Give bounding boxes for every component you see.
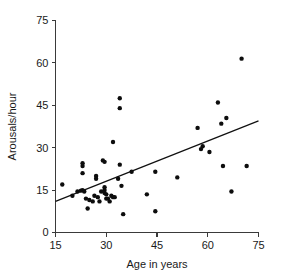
data-point	[82, 189, 86, 193]
y-axis-title: Arousals/hour	[6, 92, 18, 160]
data-point	[107, 199, 111, 203]
y-tick-label: 60	[36, 57, 48, 69]
data-point	[91, 199, 95, 203]
y-tick-label: 45	[36, 99, 48, 111]
regression-line	[56, 121, 259, 202]
x-tick-label: 30	[100, 239, 112, 251]
data-point	[195, 126, 199, 130]
data-point	[70, 194, 74, 198]
data-point	[221, 164, 225, 168]
data-point	[207, 150, 211, 154]
data-point	[219, 121, 223, 125]
data-point	[229, 189, 233, 193]
x-tick-label: 15	[49, 239, 61, 251]
data-point	[94, 177, 98, 181]
plot-area: 015304560751530456075Age in yearsArousal…	[0, 0, 281, 278]
data-point	[113, 195, 117, 199]
scatter-chart: 015304560751530456075Age in yearsArousal…	[0, 0, 281, 278]
data-point	[104, 192, 108, 196]
data-point	[96, 195, 100, 199]
y-tick-label: 30	[36, 142, 48, 154]
y-tick-label: 0	[42, 226, 48, 238]
data-point	[118, 96, 122, 100]
y-tick-label: 75	[36, 14, 48, 26]
data-point	[153, 170, 157, 174]
data-point	[145, 192, 149, 196]
data-point	[153, 209, 157, 213]
data-point	[80, 171, 84, 175]
data-point	[244, 164, 248, 168]
x-tick-label: 60	[202, 239, 214, 251]
data-point	[216, 100, 220, 104]
data-point	[116, 177, 120, 181]
data-point	[224, 116, 228, 120]
data-point	[97, 199, 101, 203]
data-point	[102, 160, 106, 164]
data-point	[80, 164, 84, 168]
x-tick-label: 45	[151, 239, 163, 251]
data-point	[119, 184, 123, 188]
data-point	[85, 206, 89, 210]
data-point	[239, 56, 243, 60]
data-point	[118, 162, 122, 166]
data-point	[175, 175, 179, 179]
data-point	[200, 144, 204, 148]
x-axis-title: Age in years	[126, 258, 188, 270]
y-tick-label: 15	[36, 184, 48, 196]
data-point	[121, 212, 125, 216]
data-point	[129, 170, 133, 174]
data-point	[60, 182, 64, 186]
data-point	[111, 140, 115, 144]
data-point	[118, 106, 122, 110]
x-tick-label: 75	[252, 239, 264, 251]
